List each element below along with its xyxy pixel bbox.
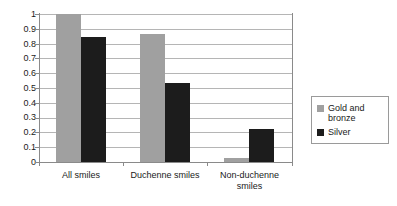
y-axis-line	[39, 13, 40, 163]
legend-label-line: Gold and	[328, 103, 365, 113]
y-axis-tick-label: 0.9	[2, 25, 36, 34]
legend-label-line: bronze	[328, 113, 356, 123]
x-axis-tick-mark	[207, 162, 208, 166]
legend-label-silver: Silver	[328, 127, 351, 137]
plot-right-edge	[292, 13, 293, 163]
legend-label-gold-and-bronze: Gold and bronze	[328, 103, 386, 123]
category-label-line: Non-duchenne	[207, 170, 292, 181]
y-axis-tick-label: 0.5	[2, 84, 36, 93]
y-axis-tick-label: 0.3	[2, 113, 36, 122]
category-label-line: smiles	[207, 181, 292, 192]
legend-item-gold-and-bronze: Gold and bronze	[317, 103, 388, 123]
bar-gold-and-bronze-all-smiles	[56, 14, 81, 162]
x-axis-tick-mark	[39, 162, 40, 166]
category-label-line: Duchenne smiles	[123, 170, 207, 181]
x-axis-category-label-non-duchenne-smiles: Non-duchenne smiles	[207, 170, 292, 192]
y-axis-tick-label: 0	[2, 158, 36, 167]
gold-swatch-icon	[317, 105, 324, 112]
y-axis-tick-label: 1	[2, 10, 36, 19]
bar-chart: 1 0.9 0.8 0.7 0.6 0.5 0.4 0.3 0.2 0.1 0	[0, 0, 397, 206]
chart-legend: Gold and bronze Silver	[311, 96, 389, 144]
bar-silver-all-smiles	[81, 37, 106, 162]
legend-item-silver: Silver	[317, 127, 388, 137]
y-axis-tick-label: 0.4	[2, 99, 36, 108]
bars-layer	[39, 14, 292, 162]
x-axis-category-label-all-smiles: All smiles	[39, 170, 123, 181]
y-axis: 1 0.9 0.8 0.7 0.6 0.5 0.4 0.3 0.2 0.1 0	[0, 0, 36, 206]
silver-swatch-icon	[317, 129, 324, 136]
bar-silver-non-duchenne-smiles	[249, 129, 274, 162]
y-axis-tick-label: 0.8	[2, 40, 36, 49]
y-axis-tick-label: 0.7	[2, 54, 36, 63]
x-axis-line	[39, 162, 293, 163]
x-axis-category-label-duchenne-smiles: Duchenne smiles	[123, 170, 207, 181]
bar-silver-duchenne-smiles	[165, 83, 190, 162]
x-axis-tick-mark	[292, 162, 293, 166]
bar-gold-and-bronze-duchenne-smiles	[140, 34, 165, 162]
y-axis-tick-label: 0.2	[2, 128, 36, 137]
legend-label-line: Silver	[328, 127, 351, 137]
y-axis-tick-label: 0.6	[2, 69, 36, 78]
category-label-line: All smiles	[39, 170, 123, 181]
x-axis-tick-mark	[123, 162, 124, 166]
y-axis-tick-label: 0.1	[2, 143, 36, 152]
